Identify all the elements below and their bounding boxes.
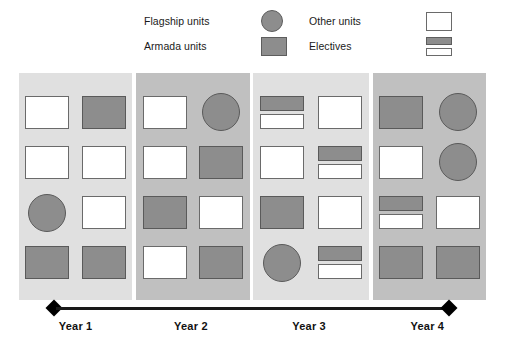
unit-cell <box>378 93 424 131</box>
unit-armada-rect <box>25 246 69 279</box>
unit-cell <box>142 143 188 181</box>
legend-label: Flagship units <box>144 15 209 27</box>
unit-grid <box>136 73 249 300</box>
unit-cell <box>24 194 70 232</box>
unit-row <box>253 240 368 286</box>
unit-cell <box>81 244 127 282</box>
timeline-axis <box>0 300 505 318</box>
unit-other-rect <box>379 146 423 179</box>
unit-cell <box>24 143 70 181</box>
unit-other-rect <box>318 96 362 129</box>
unit-armada-rect <box>199 146 243 179</box>
stacked-bars-icon <box>426 37 452 56</box>
year-label-1: Year 1 <box>19 320 132 338</box>
unit-row <box>136 139 249 185</box>
unit-cell <box>435 194 481 232</box>
rectangle-filled-icon <box>261 37 287 56</box>
elective-bar-bottom <box>260 114 304 129</box>
elective-bar-bottom <box>318 264 362 279</box>
unit-other-rect <box>199 196 243 229</box>
legend-item-electives: Electives <box>309 40 416 52</box>
unit-armada-rect <box>379 96 423 129</box>
unit-armada-rect <box>436 246 480 279</box>
unit-row <box>253 190 368 236</box>
unit-flagship-circle <box>28 194 66 232</box>
year-labels: Year 1Year 2Year 3Year 4 <box>19 320 486 338</box>
unit-cell <box>259 143 305 181</box>
legend-row: Flagship units Other units <box>144 10 474 32</box>
elective-bar-bottom <box>318 164 362 179</box>
unit-other-rect <box>82 146 126 179</box>
unit-cell <box>378 143 424 181</box>
unit-cell <box>142 194 188 232</box>
unit-other-rect <box>143 96 187 129</box>
unit-flagship-circle <box>439 143 477 181</box>
unit-row <box>136 89 249 135</box>
unit-cell <box>259 93 305 131</box>
unit-elective-stack <box>318 246 362 279</box>
unit-cell <box>259 194 305 232</box>
unit-other-rect <box>143 246 187 279</box>
legend-label: Electives <box>309 40 351 52</box>
unit-row <box>373 139 486 185</box>
unit-cell <box>81 93 127 131</box>
unit-other-rect <box>260 146 304 179</box>
unit-cell <box>198 143 244 181</box>
year-column-1 <box>19 73 132 300</box>
unit-armada-rect <box>82 246 126 279</box>
elective-bar-top <box>318 246 362 261</box>
rectangle-outline-icon <box>426 12 452 31</box>
unit-grid <box>373 73 486 300</box>
unit-cell <box>378 194 424 232</box>
year-column-3 <box>253 73 368 300</box>
legend-item-flagship-units: Flagship units <box>144 15 251 27</box>
unit-row <box>19 89 132 135</box>
year-label-3: Year 3 <box>250 320 369 338</box>
unit-cell <box>198 93 244 131</box>
unit-elective-stack <box>379 196 423 229</box>
unit-cell <box>378 244 424 282</box>
elective-bar-top <box>260 96 304 111</box>
curriculum-chart <box>19 73 486 300</box>
year-column-2 <box>136 73 249 300</box>
unit-elective-stack <box>260 96 304 129</box>
unit-row <box>19 139 132 185</box>
legend-swatch-armada <box>251 37 309 56</box>
axis-line <box>56 307 449 310</box>
unit-row <box>373 89 486 135</box>
year-column-4 <box>373 73 486 300</box>
unit-row <box>253 89 368 135</box>
unit-row <box>373 190 486 236</box>
unit-row <box>373 240 486 286</box>
unit-other-rect <box>318 196 362 229</box>
unit-row <box>19 240 132 286</box>
unit-other-rect <box>143 146 187 179</box>
unit-row <box>19 190 132 236</box>
unit-cell <box>24 244 70 282</box>
unit-grid <box>253 73 368 300</box>
unit-cell <box>81 194 127 232</box>
unit-cell <box>24 93 70 131</box>
unit-row <box>253 139 368 185</box>
unit-flagship-circle <box>263 244 301 282</box>
unit-flagship-circle <box>202 93 240 131</box>
year-label-2: Year 2 <box>132 320 249 338</box>
unit-cell <box>198 194 244 232</box>
elective-bar-top <box>379 196 423 211</box>
year-label-4: Year 4 <box>369 320 486 338</box>
unit-armada-rect <box>82 96 126 129</box>
unit-cell <box>317 93 363 131</box>
unit-other-rect <box>25 146 69 179</box>
legend: Flagship units Other units Armada units … <box>144 8 474 58</box>
unit-other-rect <box>82 196 126 229</box>
unit-cell <box>142 244 188 282</box>
unit-flagship-circle <box>439 93 477 131</box>
elective-bar-top <box>426 37 452 45</box>
circle-icon <box>261 10 283 32</box>
legend-label: Armada units <box>144 40 206 52</box>
unit-armada-rect <box>379 246 423 279</box>
unit-cell <box>435 93 481 131</box>
unit-cell <box>81 143 127 181</box>
unit-row <box>136 240 249 286</box>
unit-row <box>136 190 249 236</box>
